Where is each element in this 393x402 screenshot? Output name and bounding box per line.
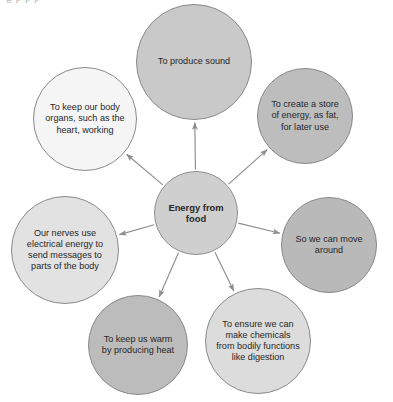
- node-nerves-messages[interactable]: Our nerves use electrical energy to send…: [11, 196, 119, 304]
- node-label-store-of-energy: To create a store of energy, as fat, for…: [262, 99, 348, 132]
- arrow-center-to-nerves-messages: [119, 225, 154, 235]
- node-label-keep-us-warm: To keep us warm by producing heat: [93, 334, 183, 356]
- node-label-move-around: So we can move around: [286, 234, 371, 256]
- node-store-of-energy[interactable]: To create a store of energy, as fat, for…: [257, 68, 353, 164]
- node-keep-us-warm[interactable]: To keep us warm by producing heat: [88, 295, 188, 395]
- arrow-center-to-move-around: [238, 223, 280, 233]
- arrow-center-to-body-organs: [127, 154, 163, 185]
- node-label-center: Energy from food: [159, 202, 232, 225]
- arrow-center-to-produce-sound: [195, 122, 196, 169]
- node-produce-sound[interactable]: To produce sound: [136, 4, 252, 120]
- node-label-make-chemicals: To ensure we can make chemicals from bod…: [207, 319, 308, 363]
- arrow-center-to-keep-us-warm: [159, 253, 178, 297]
- node-label-nerves-messages: Our nerves use electrical energy to send…: [18, 228, 112, 272]
- node-label-produce-sound: To produce sound: [149, 56, 239, 67]
- node-label-body-organs: To keep our body organs, such as the hea…: [36, 102, 133, 135]
- node-make-chemicals[interactable]: To ensure we can make chemicals from bod…: [205, 288, 311, 394]
- node-move-around[interactable]: So we can move around: [281, 197, 377, 293]
- mind-map-diagram: g p p p To produce soundTo create a stor…: [0, 0, 393, 402]
- arrow-center-to-make-chemicals: [215, 252, 234, 291]
- center-node-center[interactable]: Energy from food: [154, 171, 238, 255]
- arrow-center-to-store-of-energy: [229, 150, 268, 185]
- node-body-organs[interactable]: To keep our body organs, such as the hea…: [33, 67, 137, 171]
